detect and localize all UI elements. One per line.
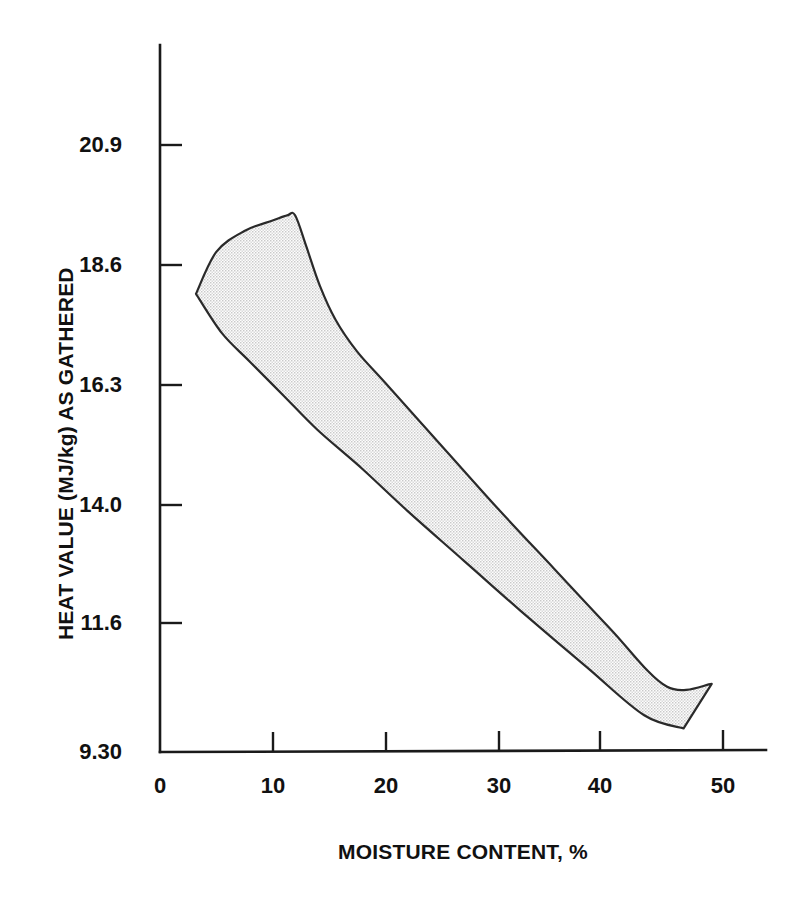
band-final	[196, 213, 712, 729]
chart-figure: HEAT VALUE (MJ/kg) AS GATHERED 20.9 18.6…	[0, 0, 800, 908]
x-axis-title: MOISTURE CONTENT, %	[160, 840, 766, 864]
x-axis-line	[160, 750, 766, 752]
plot-area	[0, 0, 800, 908]
